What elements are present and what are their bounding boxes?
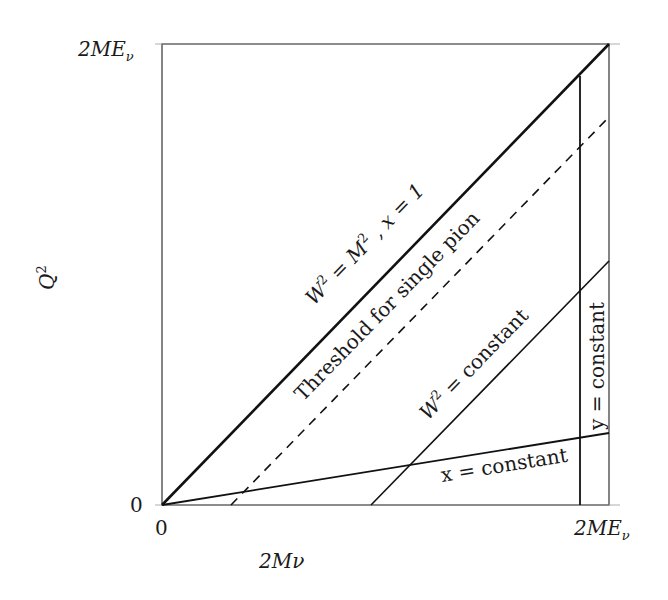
y-max-label: 2MEν — [77, 37, 134, 64]
w2-constant-label: W2 = constant — [414, 303, 533, 425]
diagonal-x1-line — [162, 44, 609, 505]
x-axis-label: 2Mν — [258, 549, 304, 573]
kinematic-diagram: 2MEν 0 0 2MEν 2Mν Q2 W2 = M2 , x = 1 Thr… — [0, 0, 668, 600]
y-zero-label: 0 — [130, 493, 143, 517]
x-zero-label: 0 — [155, 516, 168, 540]
y-constant-label: y = constant — [585, 302, 609, 431]
y-axis-label: Q2 — [34, 265, 59, 290]
x-max-label: 2MEν — [573, 516, 630, 543]
